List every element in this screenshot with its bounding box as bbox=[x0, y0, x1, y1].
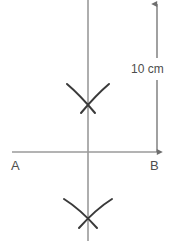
point-label-b: B bbox=[150, 158, 159, 173]
geometry-figure: 10 cm A B bbox=[0, 0, 181, 241]
arc-from-b-upper bbox=[81, 84, 109, 113]
point-label-a: A bbox=[11, 158, 20, 173]
construction-diagram-svg: 10 cm A B bbox=[0, 0, 181, 241]
arc-from-a-upper bbox=[67, 84, 95, 113]
dimension-label: 10 cm bbox=[131, 62, 164, 76]
